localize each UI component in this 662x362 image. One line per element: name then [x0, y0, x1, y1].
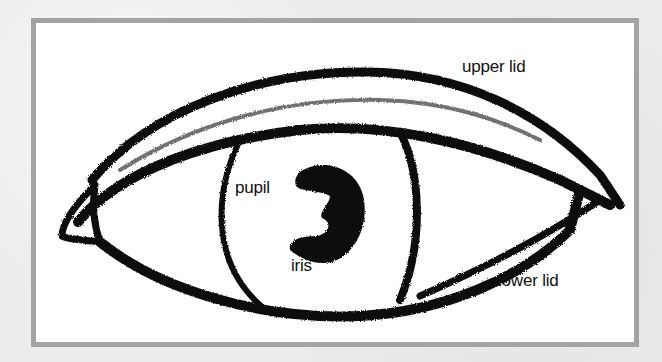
- label-iris: iris: [291, 257, 312, 274]
- label-lower-lid: lower lid: [498, 272, 559, 289]
- iris-outline: [222, 140, 260, 305]
- label-upper-lid: upper lid: [462, 58, 525, 75]
- pupil-shape: [290, 165, 365, 263]
- label-pupil: pupil: [235, 179, 270, 196]
- eye-drawing: [0, 0, 662, 362]
